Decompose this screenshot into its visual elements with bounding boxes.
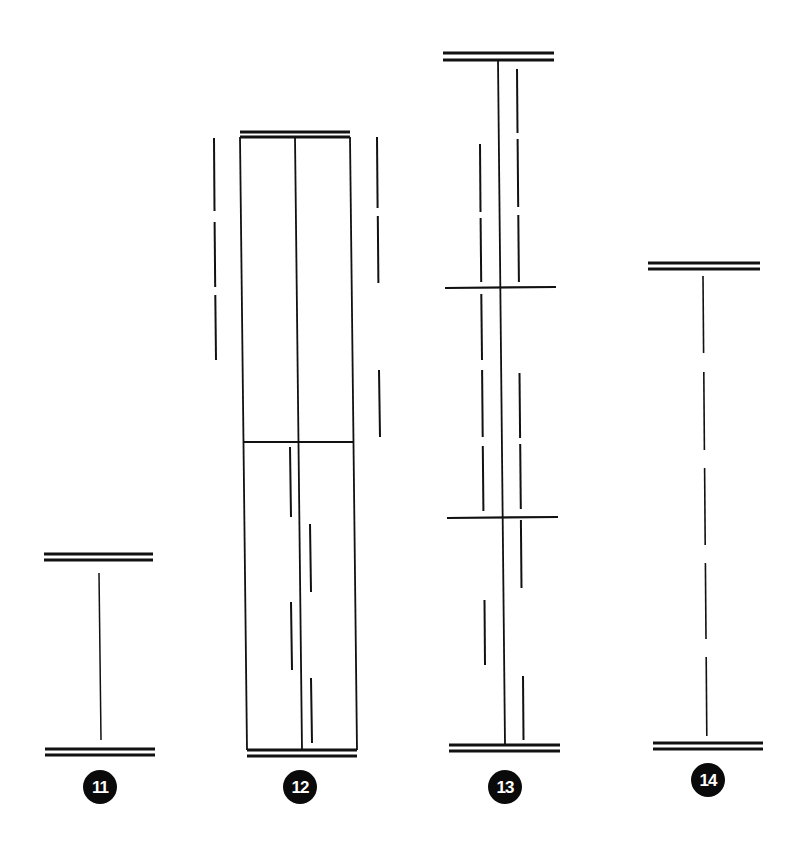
fig-12-line-13 [379,370,380,437]
fig-14-line-6 [706,657,707,736]
fig-13-line-8 [481,218,482,282]
figure-12-label-badge: 12 [283,770,317,804]
fig-14-line-4 [705,468,706,545]
fig-12-line-10 [215,295,216,360]
fig-12-line-2 [240,137,247,750]
figure-13-lines [443,53,560,751]
figure-13-number: 13 [497,778,514,797]
fig-13-line-18 [521,520,522,588]
figure-13: 13 [443,53,560,804]
fig-14-line-2 [703,276,704,353]
figure-13-label-badge: 13 [488,770,522,804]
fig-14-line-3 [704,372,705,450]
figure-14: 14 [648,263,763,797]
fig-12-line-4 [295,137,302,750]
fig-13-line-3 [445,287,556,288]
figure-11-lines [44,554,155,755]
fig-13-line-9 [481,294,482,360]
figure-12-lines [214,132,380,756]
fig-13-line-7 [480,144,481,212]
fig-12-line-14 [290,447,291,517]
figure-11-number: 11 [92,778,109,797]
fig-12-line-12 [378,216,379,283]
figure-11-label-badge: 11 [83,770,117,804]
fig-13-line-12 [485,600,486,665]
fig-12-line-9 [215,222,216,287]
fig-12-line-8 [214,138,215,211]
fig-13-line-19 [523,676,524,740]
fig-13-line-10 [482,370,483,437]
fig-12-line-3 [350,137,357,750]
fig-12-line-11 [377,137,378,208]
fig-12-line-17 [311,678,312,743]
figure-11: 11 [44,554,155,804]
fig-13-line-4 [447,517,558,518]
fig-13-line-13 [517,69,518,133]
fig-14-line-5 [705,563,706,639]
figure-14-lines [648,263,763,749]
fig-13-line-17 [520,444,521,509]
fig-12-line-15 [310,524,311,592]
fig-13-line-15 [518,215,519,282]
fig-11-line-2 [99,573,101,740]
diagram-canvas: 11 12 13 14 [0,0,800,846]
fig-13-line-11 [483,446,484,511]
figure-14-number: 14 [700,771,718,790]
fig-12-line-16 [291,602,292,670]
fig-13-line-16 [520,373,521,438]
figure-12: 12 [214,132,380,804]
figure-12-number: 12 [292,778,309,797]
fig-13-line-2 [498,60,505,745]
fig-13-line-14 [518,139,519,207]
figure-14-label-badge: 14 [691,763,725,797]
